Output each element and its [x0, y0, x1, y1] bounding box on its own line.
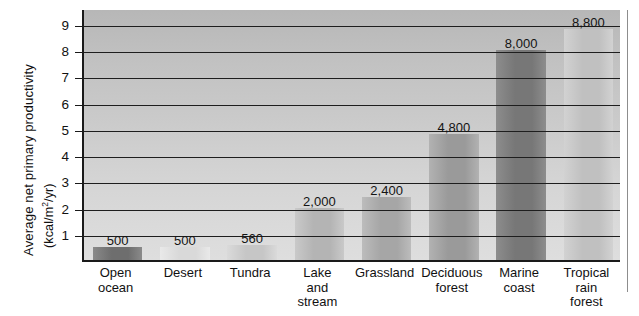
x-axis-category-label: Marinecoast	[499, 266, 539, 295]
bar-value-label: 8,000	[500, 36, 543, 51]
x-axis-category-label: Openocean	[98, 266, 133, 295]
y-axis-tick-label: 4	[61, 149, 75, 164]
x-axis-category-label-line: Grassland	[355, 266, 414, 281]
x-axis-category-label: Grassland	[355, 266, 414, 281]
x-axis-category-label-line: Tundra	[230, 266, 271, 281]
y-axis-unit-suffix: /yr)	[42, 183, 56, 202]
x-axis-category-label-line: and	[298, 281, 338, 296]
bar	[362, 197, 411, 260]
plot-area: 5005005602,0002,4004,8008,0008,800 12345…	[82, 10, 620, 262]
bar	[564, 29, 613, 260]
y-axis-tick-label: 1	[61, 228, 75, 243]
y-axis-tick: 5	[75, 131, 84, 132]
x-axis-category-label-line: coast	[499, 281, 539, 296]
bar-value-label: 8,800	[567, 15, 610, 30]
y-axis-tick-label: 8	[61, 44, 75, 59]
bar	[227, 245, 276, 260]
bar-value-text: 8,800	[570, 15, 607, 30]
x-axis-category-label: Deciduousforest	[421, 266, 482, 295]
y-axis-tick: 3	[75, 183, 84, 184]
bar-value-label: 500	[169, 233, 201, 248]
x-axis-category-label: Lakeandstream	[298, 266, 338, 310]
y-axis-tick: 8	[75, 52, 84, 53]
bar-value-text: 560	[239, 231, 265, 246]
bar	[295, 208, 344, 261]
x-axis-category-label-line: Open	[98, 266, 133, 281]
x-axis-category-label-line: Desert	[164, 266, 202, 281]
bar-value-text: 4,800	[436, 120, 473, 135]
bar	[429, 134, 478, 260]
y-axis-tick: 4	[75, 157, 84, 158]
x-axis-category-label-line: Marine	[499, 266, 539, 281]
y-axis-title: Average net primary productivity (kcal/m…	[0, 0, 56, 272]
y-axis-tick-label: 3	[61, 175, 75, 190]
y-axis-unit-prefix: (kcal/m	[42, 207, 56, 248]
bar-value-label: 500	[102, 233, 134, 248]
y-axis-title-line-1: Average net primary productivity	[21, 64, 36, 256]
x-axis-category-label-line: rain	[563, 281, 609, 296]
y-axis-tick: 2	[75, 210, 84, 211]
bar	[93, 247, 142, 260]
right-margin-rule	[627, 10, 628, 292]
bar	[160, 247, 209, 260]
y-axis-title-line-2: (kcal/m2/yr)	[40, 183, 56, 248]
bar-value-text: 2,000	[301, 194, 338, 209]
y-axis-tick-label: 2	[61, 202, 75, 217]
x-axis-category-label-line: Lake	[298, 266, 338, 281]
bar-value-text: 500	[105, 233, 131, 248]
bar-value-text: 2,400	[368, 183, 405, 198]
x-axis-category-label-line: stream	[298, 295, 338, 310]
chart-figure: Average net primary productivity (kcal/m…	[0, 0, 639, 316]
y-axis-tick-label: 5	[61, 123, 75, 138]
x-axis-category-label-line: forest	[421, 281, 482, 296]
x-axis-category-label: Tundra	[230, 266, 271, 281]
y-axis-tick: 6	[75, 105, 84, 106]
bar-value-text: 8,000	[503, 36, 540, 51]
y-axis-tick: 9	[75, 26, 84, 27]
bar-value-label: 2,400	[365, 183, 408, 198]
bar-value-text: 500	[172, 233, 198, 248]
x-axis-category-label-line: Tropical	[563, 266, 609, 281]
y-axis-tick-label: 6	[61, 97, 75, 112]
x-axis-category-labels: OpenoceanDesertTundraLakeandstreamGrassl…	[82, 266, 620, 316]
y-axis-tick-label: 7	[61, 70, 75, 85]
bar	[496, 50, 545, 260]
x-axis-category-label-line: ocean	[98, 281, 133, 296]
x-axis-category-label: Tropicalrainforest	[563, 266, 609, 310]
x-axis-category-label: Desert	[164, 266, 202, 281]
bar-value-label: 2,000	[298, 194, 341, 209]
y-axis-tick: 7	[75, 78, 84, 79]
bar-value-label: 4,800	[433, 120, 476, 135]
x-axis-category-label-line: forest	[563, 295, 609, 310]
y-axis-tick-label: 9	[61, 18, 75, 33]
bar-value-label: 560	[236, 231, 268, 246]
x-axis-category-label-line: Deciduous	[421, 266, 482, 281]
y-axis-tick: 1	[75, 236, 84, 237]
y-axis-unit-exponent: 2	[40, 202, 50, 207]
